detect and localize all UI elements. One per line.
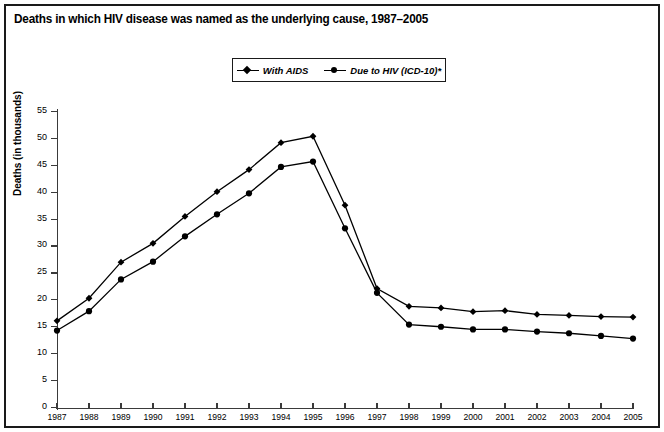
data-point [150, 259, 156, 265]
data-point [470, 326, 476, 332]
data-point [406, 322, 412, 328]
data-point [630, 336, 636, 342]
data-point [342, 225, 348, 231]
chart-figure: Deaths in which HIV disease was named as… [0, 0, 664, 432]
data-point [534, 311, 541, 318]
data-point [118, 276, 124, 282]
data-point [310, 133, 317, 140]
data-point [534, 329, 540, 335]
data-point [278, 164, 284, 170]
data-point [54, 327, 60, 333]
data-point [86, 308, 92, 314]
data-point [502, 326, 508, 332]
data-point [630, 314, 637, 321]
data-point [502, 307, 509, 314]
data-point [342, 202, 349, 209]
series-line [57, 162, 633, 339]
data-point [406, 303, 413, 310]
data-point [214, 211, 220, 217]
data-point [438, 324, 444, 330]
data-point [566, 330, 572, 336]
data-point [246, 190, 252, 196]
data-series-layer [0, 0, 664, 432]
data-point [374, 290, 380, 296]
data-point [310, 158, 316, 164]
data-point [470, 308, 477, 315]
data-point [598, 333, 604, 339]
data-point [566, 312, 573, 319]
data-point [182, 233, 188, 239]
data-point [438, 305, 445, 312]
data-point [598, 313, 605, 320]
